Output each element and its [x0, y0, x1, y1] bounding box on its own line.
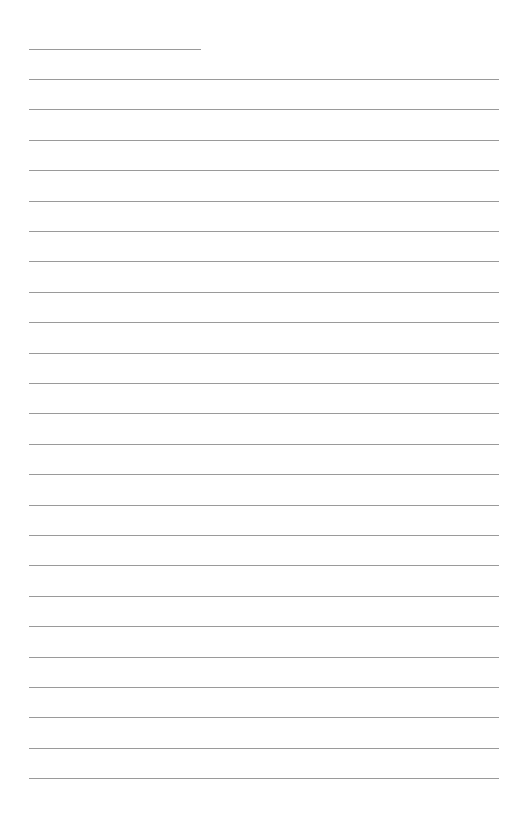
writing-line-left-segment [29, 79, 266, 80]
writing-line[interactable] [29, 140, 499, 141]
writing-line-right-segment [266, 626, 499, 627]
writing-line[interactable] [29, 413, 499, 414]
lined-page [0, 0, 514, 820]
writing-line-left-segment [29, 505, 266, 506]
writing-line[interactable] [29, 231, 499, 232]
writing-line[interactable] [29, 535, 499, 536]
writing-line[interactable] [29, 109, 499, 110]
writing-line[interactable] [29, 596, 499, 597]
writing-line-right-segment [266, 565, 499, 566]
writing-line-right-segment [266, 413, 499, 414]
writing-line-right-segment [266, 140, 499, 141]
writing-line-left-segment [29, 353, 266, 354]
writing-line[interactable] [29, 322, 499, 323]
writing-line-left-segment [29, 626, 266, 627]
writing-line-right-segment [266, 109, 499, 110]
writing-line-right-segment [266, 687, 499, 688]
writing-line-left-segment [29, 687, 266, 688]
writing-line-right-segment [266, 322, 499, 323]
writing-line-left-segment [29, 383, 266, 384]
writing-line-left-segment [29, 261, 266, 262]
writing-line-left-segment [29, 201, 266, 202]
writing-line[interactable] [29, 657, 499, 658]
writing-line-left-segment [29, 413, 266, 414]
writing-line-left-segment [29, 322, 266, 323]
writing-line[interactable] [29, 565, 499, 566]
writing-line-right-segment [266, 353, 499, 354]
writing-line-right-segment [266, 444, 499, 445]
writing-line[interactable] [29, 748, 499, 749]
writing-line[interactable] [29, 201, 499, 202]
writing-line-right-segment [266, 201, 499, 202]
writing-line-left-segment [29, 535, 266, 536]
writing-line-right-segment [266, 717, 499, 718]
writing-line[interactable] [29, 383, 499, 384]
writing-line-right-segment [266, 383, 499, 384]
writing-line[interactable] [29, 687, 499, 688]
writing-line-left-segment [29, 170, 266, 171]
writing-line-right-segment [266, 748, 499, 749]
writing-line-left-segment [29, 444, 266, 445]
writing-line-right-segment [266, 657, 499, 658]
writing-line-right-segment [266, 474, 499, 475]
writing-line-left-segment [29, 474, 266, 475]
writing-line-left-segment [29, 231, 266, 232]
writing-line-left-segment [29, 596, 266, 597]
writing-line-right-segment [266, 535, 499, 536]
writing-line-left-segment [29, 717, 266, 718]
writing-line-right-segment [266, 505, 499, 506]
writing-line-right-segment [266, 231, 499, 232]
writing-line-right-segment [266, 261, 499, 262]
writing-line[interactable] [29, 292, 499, 293]
writing-line[interactable] [29, 79, 499, 80]
writing-line-left-segment [29, 109, 266, 110]
writing-line[interactable] [29, 717, 499, 718]
writing-line[interactable] [29, 353, 499, 354]
writing-line[interactable] [29, 505, 499, 506]
writing-line-right-segment [266, 170, 499, 171]
writing-line-left-segment [29, 140, 266, 141]
writing-line-left-segment [29, 748, 266, 749]
writing-line-right-segment [266, 596, 499, 597]
writing-line-right-segment [266, 79, 499, 80]
writing-line[interactable] [29, 170, 499, 171]
writing-line-right-segment [266, 778, 499, 779]
header-line[interactable] [29, 49, 201, 50]
writing-line-left-segment [29, 292, 266, 293]
writing-line[interactable] [29, 474, 499, 475]
writing-line-left-segment [29, 778, 266, 779]
writing-line[interactable] [29, 626, 499, 627]
writing-line[interactable] [29, 444, 499, 445]
writing-line[interactable] [29, 778, 499, 779]
writing-line-right-segment [266, 292, 499, 293]
writing-line-left-segment [29, 657, 266, 658]
writing-line[interactable] [29, 261, 499, 262]
writing-line-left-segment [29, 565, 266, 566]
